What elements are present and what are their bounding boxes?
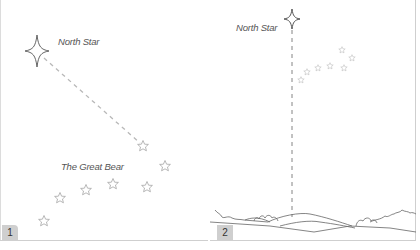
panel-number-badge: 1 bbox=[2, 225, 18, 241]
panel-number-badge: 2 bbox=[217, 225, 233, 241]
star-icon bbox=[160, 161, 171, 171]
star-icon bbox=[81, 185, 92, 195]
star-icon bbox=[315, 65, 321, 71]
diagram-panel-2: North Star 2 bbox=[210, 0, 416, 241]
great-bear-label: The Great Bear bbox=[61, 161, 124, 172]
star-icon bbox=[298, 77, 304, 83]
north-star-label: North Star bbox=[236, 22, 277, 33]
star-icon bbox=[108, 179, 119, 189]
star-icon bbox=[341, 65, 347, 71]
star-icon bbox=[327, 63, 333, 69]
north-star-label: North Star bbox=[58, 36, 99, 47]
star-icon bbox=[304, 69, 310, 75]
horizon-landscape bbox=[210, 210, 416, 232]
star-icon bbox=[55, 193, 66, 203]
diagram-panel-1: North Star The Great Bear 1 bbox=[0, 0, 208, 241]
star-icon bbox=[349, 55, 355, 61]
star-icon bbox=[339, 47, 345, 53]
pointer-dashed-line bbox=[44, 58, 140, 143]
great-bear-stars bbox=[298, 47, 355, 83]
panel-2-baseline bbox=[210, 240, 416, 241]
star-icon bbox=[39, 216, 50, 226]
north-star-icon bbox=[284, 9, 300, 29]
panel-1-baseline bbox=[0, 240, 208, 241]
panel-2-drawing bbox=[210, 0, 416, 241]
panel-1-drawing bbox=[1, 0, 209, 241]
star-icon bbox=[142, 182, 153, 192]
great-bear-stars bbox=[39, 141, 171, 226]
star-icon bbox=[138, 141, 149, 151]
north-star-icon bbox=[25, 35, 49, 67]
